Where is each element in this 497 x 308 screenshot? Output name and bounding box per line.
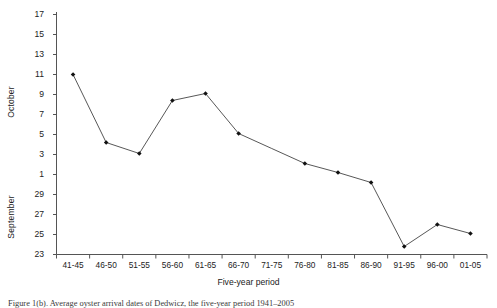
data-line xyxy=(73,75,470,247)
y-tick-label: 27 xyxy=(2,210,44,219)
y-tick-label: 17 xyxy=(2,10,44,19)
y-tick-label: 9 xyxy=(2,90,44,99)
data-point xyxy=(336,170,341,175)
y-tick-label: 1 xyxy=(2,170,44,179)
figure-caption: Figure 1(b). Average oyster arrival date… xyxy=(8,299,497,308)
x-tick-marks xyxy=(57,255,488,259)
x-tick-label: 76-80 xyxy=(294,261,315,270)
data-point xyxy=(71,72,76,77)
x-tick-label: 51-55 xyxy=(129,261,150,270)
data-point-markers xyxy=(71,72,473,249)
data-point xyxy=(369,180,374,185)
data-point xyxy=(402,244,407,249)
data-point xyxy=(303,161,308,166)
y-tick-label: 23 xyxy=(2,250,44,259)
x-tick-label: 46-50 xyxy=(96,261,117,270)
y-tick-label: 11 xyxy=(2,70,44,79)
data-point xyxy=(468,231,473,236)
y-tick-label: 3 xyxy=(2,150,44,159)
y-tick-label: 13 xyxy=(2,50,44,59)
data-point xyxy=(137,151,142,156)
y-tick-label: 7 xyxy=(2,110,44,119)
x-tick-label: 56-60 xyxy=(162,261,183,270)
y-tick-marks xyxy=(53,15,57,255)
x-tick-label: 01-05 xyxy=(460,261,481,270)
x-tick-label: 91-95 xyxy=(394,261,415,270)
x-axis-title: Five-year period xyxy=(0,277,497,287)
data-point xyxy=(104,140,109,145)
y-tick-label: 5 xyxy=(2,130,44,139)
y-tick-label: 25 xyxy=(2,230,44,239)
y-axis-tick-labels: 17 15 13 11 9 7 5 3 1 29 27 25 23 xyxy=(0,0,44,307)
x-tick-label: 41-45 xyxy=(62,261,83,270)
x-tick-label: 86-90 xyxy=(360,261,381,270)
data-point xyxy=(170,98,175,103)
data-point xyxy=(435,222,440,227)
x-tick-label: 71-75 xyxy=(261,261,282,270)
x-tick-label: 96-00 xyxy=(427,261,448,270)
axis-lines xyxy=(57,12,488,255)
y-tick-label: 15 xyxy=(2,30,44,39)
x-tick-label: 66-70 xyxy=(228,261,249,270)
y-tick-label: 29 xyxy=(2,190,44,199)
x-tick-label: 81-85 xyxy=(327,261,348,270)
x-tick-label: 61-65 xyxy=(195,261,216,270)
